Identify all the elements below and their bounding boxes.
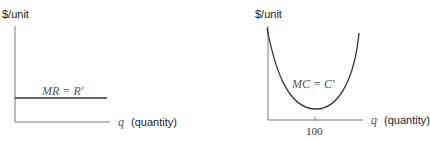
tick-label-100: 100 (306, 125, 323, 137)
right-x-axis-label: q (quantity) (371, 110, 430, 127)
left-x-axis-label: q (quantity) (118, 112, 177, 129)
mr-chart: $/unit MR = R′ q (quantity) (2, 8, 177, 129)
right-y-axis-label: $/unit (255, 8, 282, 20)
mr-label: MR = R′ (41, 84, 84, 98)
figure: $/unit MR = R′ q (quantity) $/unit MC = … (0, 0, 430, 141)
mc-label: MC = C′ (291, 77, 335, 91)
left-y-axis-label: $/unit (2, 8, 29, 20)
mc-chart: $/unit MC = C′ 100 q (quantity) (255, 8, 430, 137)
mc-curve (267, 28, 359, 109)
